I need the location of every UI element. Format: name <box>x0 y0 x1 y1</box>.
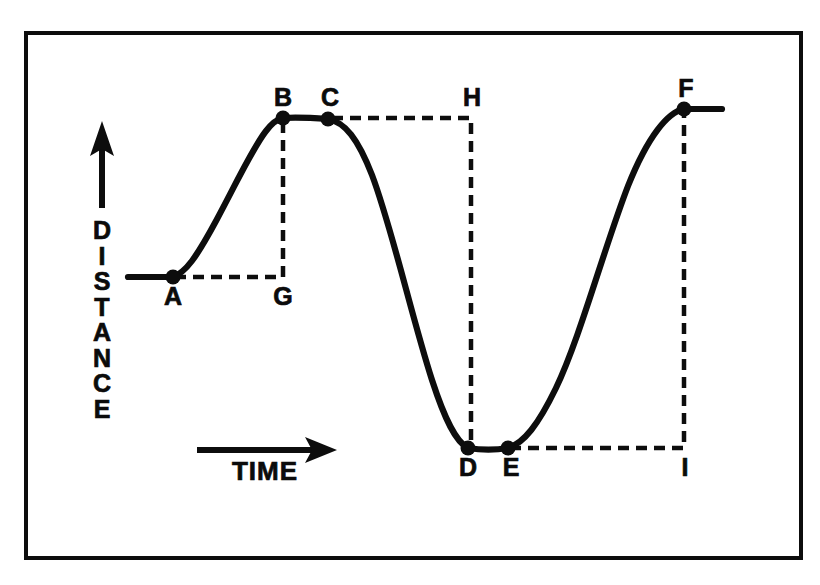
point-label-a: A <box>156 284 190 309</box>
curve-segment-a-b <box>173 118 283 277</box>
x-axis-title: TIME <box>195 457 335 485</box>
y-axis-title-letter-e2: E <box>85 397 119 423</box>
curve-markers <box>166 102 692 456</box>
y-axis-title: D I S T A N C E <box>85 218 119 422</box>
marker-point-b <box>276 111 291 126</box>
point-label-i: I <box>668 455 702 480</box>
y-axis-title-letter-t: T <box>85 295 119 321</box>
y-axis-title-letter-i: I <box>85 244 119 270</box>
y-axis-title-letter-a: A <box>85 320 119 346</box>
marker-point-c <box>321 112 336 127</box>
y-axis-title-letter-c: C <box>85 371 119 397</box>
marker-point-f <box>677 102 692 117</box>
y-axis-title-letter-s: S <box>85 269 119 295</box>
point-label-g: G <box>266 284 300 309</box>
y-axis-arrow <box>90 121 114 208</box>
point-label-c: C <box>313 85 347 110</box>
point-label-f: F <box>669 76 703 101</box>
y-axis-title-letter-n: N <box>85 346 119 372</box>
curve-segment-e-f <box>508 109 684 448</box>
figure-canvas: D I S T A N C E TIME A B C D E F G H I <box>0 0 820 585</box>
point-label-d: D <box>451 455 485 480</box>
point-label-h: H <box>455 85 489 110</box>
curve-segment-c-d <box>328 119 468 448</box>
point-label-e: E <box>494 455 528 480</box>
point-label-b: B <box>266 85 300 110</box>
y-axis-title-letter-d: D <box>85 218 119 244</box>
